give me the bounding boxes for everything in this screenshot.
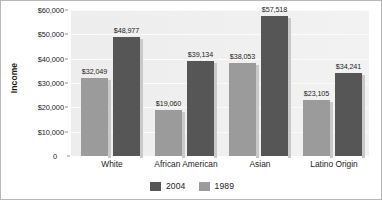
bar-group-asian: $38,053 $57,518 xyxy=(229,10,291,156)
bar-fill xyxy=(187,61,214,156)
bar-fill xyxy=(155,110,182,156)
y-tick-mark-zero xyxy=(67,156,70,157)
y-tick-mark xyxy=(65,10,68,11)
bar-shadow xyxy=(330,102,333,158)
bar-shadow xyxy=(256,65,259,158)
y-tick-label: $20,000 xyxy=(38,103,64,112)
legend-item-1989[interactable]: 1989 xyxy=(199,181,235,191)
bar-shadow xyxy=(362,75,365,158)
y-tick-mark xyxy=(65,131,68,132)
y-axis-tick-labels: $60,000 $50,000 $40,000 $30,000 $20,000 … xyxy=(18,1,68,176)
category-label-latino-origin: Latino Origin xyxy=(310,159,358,169)
category-label-white: White xyxy=(101,159,122,169)
bar-shadow xyxy=(140,39,143,158)
bar-2004-latino-origin[interactable]: $34,241 xyxy=(335,73,362,156)
bar-2004-white[interactable]: $48,977 xyxy=(113,37,140,156)
bar-1989-white[interactable]: $32,049 xyxy=(81,78,108,156)
bar-value-label: $38,053 xyxy=(230,52,255,61)
bar-value-label: $23,105 xyxy=(304,89,329,98)
bar-fill xyxy=(81,78,108,156)
bar-1989-african-american[interactable]: $19,060 xyxy=(155,110,182,156)
bar-value-label: $57,518 xyxy=(262,5,287,14)
y-tick-label-zero: 0 xyxy=(53,152,57,161)
bar-chart-figure: Income $60,000 $50,000 $40,000 $30,000 $… xyxy=(0,0,382,200)
bar-group-latino-origin: $23,105 $34,241 xyxy=(303,10,365,156)
y-tick-mark xyxy=(65,107,68,108)
bar-2004-african-american[interactable]: $39,134 xyxy=(187,61,214,156)
y-tick-label: $30,000 xyxy=(38,79,64,88)
y-tick-mark xyxy=(65,83,68,84)
bar-1989-latino-origin[interactable]: $23,105 xyxy=(303,100,330,156)
bar-fill xyxy=(303,100,330,156)
bar-value-label: $19,060 xyxy=(156,99,181,108)
bar-value-label: $34,241 xyxy=(336,62,361,71)
category-label-african-american: African American xyxy=(154,159,217,169)
bars-layer: $32,049 $48,977 $19,060 $39, xyxy=(71,10,369,156)
legend-swatch-icon xyxy=(150,182,161,191)
y-tick-label: $40,000 xyxy=(38,54,64,63)
bar-group-white: $32,049 $48,977 xyxy=(81,10,143,156)
bar-shadow xyxy=(214,63,217,158)
legend-item-2004[interactable]: 2004 xyxy=(150,181,186,191)
bar-fill xyxy=(113,37,140,156)
legend-swatch-icon xyxy=(199,182,210,191)
bar-fill xyxy=(229,63,256,156)
y-tick-label: $60,000 xyxy=(38,6,64,15)
bar-shadow xyxy=(182,112,185,158)
plot-area: $32,049 $48,977 $19,060 $39, xyxy=(71,10,369,156)
bar-fill xyxy=(261,16,288,156)
x-axis-category-labels: White African American Asian Latino Orig… xyxy=(71,159,369,173)
chart-legend: 2004 1989 xyxy=(1,181,382,191)
y-tick-mark xyxy=(65,58,68,59)
bar-value-label: $39,134 xyxy=(188,50,213,59)
bar-shadow xyxy=(108,80,111,158)
legend-label: 1989 xyxy=(215,181,235,191)
bar-value-label: $32,049 xyxy=(82,67,107,76)
bar-group-african-american: $19,060 $39,134 xyxy=(155,10,217,156)
bar-1989-asian[interactable]: $38,053 xyxy=(229,63,256,156)
bar-value-label: $48,977 xyxy=(114,26,139,35)
bar-shadow xyxy=(288,18,291,158)
y-tick-mark xyxy=(65,34,68,35)
y-tick-label: $50,000 xyxy=(38,30,64,39)
bar-2004-asian[interactable]: $57,518 xyxy=(261,16,288,156)
bar-fill xyxy=(335,73,362,156)
category-label-asian: Asian xyxy=(250,159,271,169)
y-tick-label: $10,000 xyxy=(38,127,64,136)
legend-label: 2004 xyxy=(166,181,186,191)
